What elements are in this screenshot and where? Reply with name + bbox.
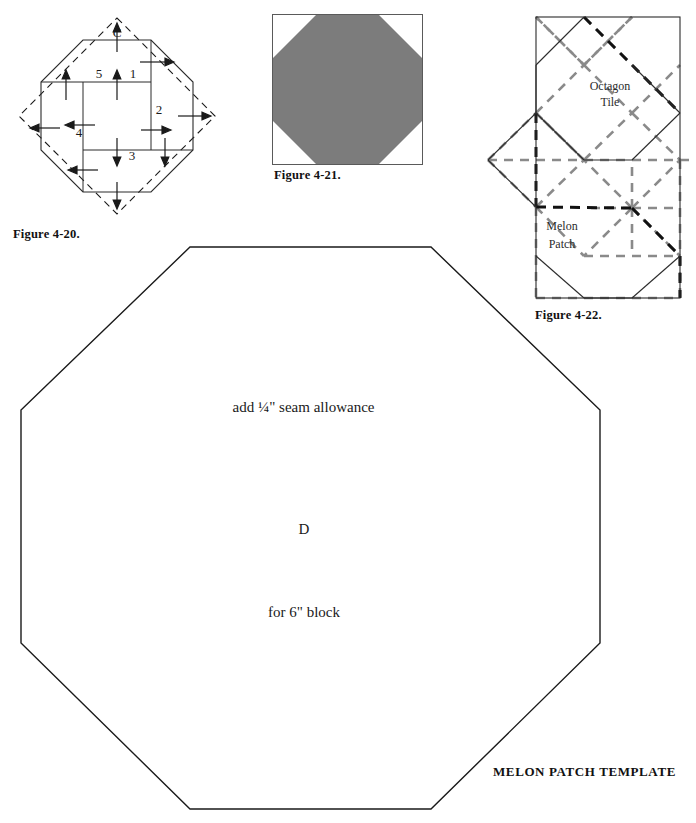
arrow-left-outer (30, 124, 60, 132)
arrow-up-strip1 (113, 70, 121, 100)
gray-octagon (273, 15, 422, 164)
arrow-down-bottom (113, 182, 121, 209)
figure-4-21-diagram (272, 14, 424, 166)
seam-allowance-note: add ¼" seam allowance (0, 399, 607, 416)
strip-number-2: 2 (156, 102, 163, 117)
template-title: MELON PATCH TEMPLATE (493, 764, 676, 780)
pressing-arrows (30, 23, 211, 209)
arrow-down-strip3 (113, 138, 121, 166)
arrow-right-outer (178, 112, 211, 120)
arrow-down-right (161, 138, 169, 166)
piece-letter-d: D (0, 521, 608, 538)
page-canvas: C 1 2 3 4 5 Figure 4-20. Figure 4-21. (0, 0, 696, 823)
strip-number-4: 4 (76, 125, 83, 140)
arrow-right-strip2 (141, 126, 171, 134)
figure-4-20-svg: C 1 2 3 4 5 (0, 0, 235, 225)
strip-number-5: 5 (96, 66, 103, 81)
block-size-note: for 6" block (0, 604, 608, 621)
octagon-tile-label-line2: Tile (601, 95, 620, 109)
arrow-up-strip5 (62, 70, 70, 100)
strip-number-3: 3 (129, 148, 136, 163)
arrow-right-upper (140, 58, 174, 66)
strip-number-1: 1 (130, 66, 137, 81)
figure-4-21-svg (272, 14, 424, 166)
corner-label-c: C (113, 25, 122, 40)
figure-4-20-diagram: C 1 2 3 4 5 (0, 0, 235, 225)
octagon-tile-label-line1: Octagon (590, 79, 631, 93)
caption-figure-4-21: Figure 4-21. (274, 168, 341, 183)
